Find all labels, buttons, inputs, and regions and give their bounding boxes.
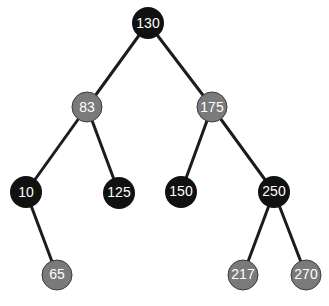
tree-node-270: 270 xyxy=(291,260,321,290)
edges xyxy=(26,23,306,275)
tree-node-65: 65 xyxy=(42,260,72,290)
node-label: 130 xyxy=(136,15,160,31)
node-label: 175 xyxy=(200,99,224,115)
tree-node-10: 10 xyxy=(10,176,42,208)
node-label: 250 xyxy=(262,183,286,199)
tree-node-125: 125 xyxy=(103,177,135,209)
node-label: 65 xyxy=(49,266,65,282)
node-label: 10 xyxy=(18,184,34,200)
node-label: 125 xyxy=(107,184,131,200)
node-label: 217 xyxy=(231,266,255,282)
tree-node-150: 150 xyxy=(165,176,197,208)
node-label: 150 xyxy=(169,183,193,199)
node-label: 83 xyxy=(79,99,95,115)
tree-node-83: 83 xyxy=(72,92,102,122)
tree-diagram: 130 83 175 10 125 150 250 65 xyxy=(0,0,329,306)
tree-node-217: 217 xyxy=(228,260,258,290)
tree-node-250: 250 xyxy=(258,176,290,208)
node-label: 270 xyxy=(294,266,318,282)
tree-node-175: 175 xyxy=(197,92,227,122)
tree-node-130: 130 xyxy=(132,7,164,39)
